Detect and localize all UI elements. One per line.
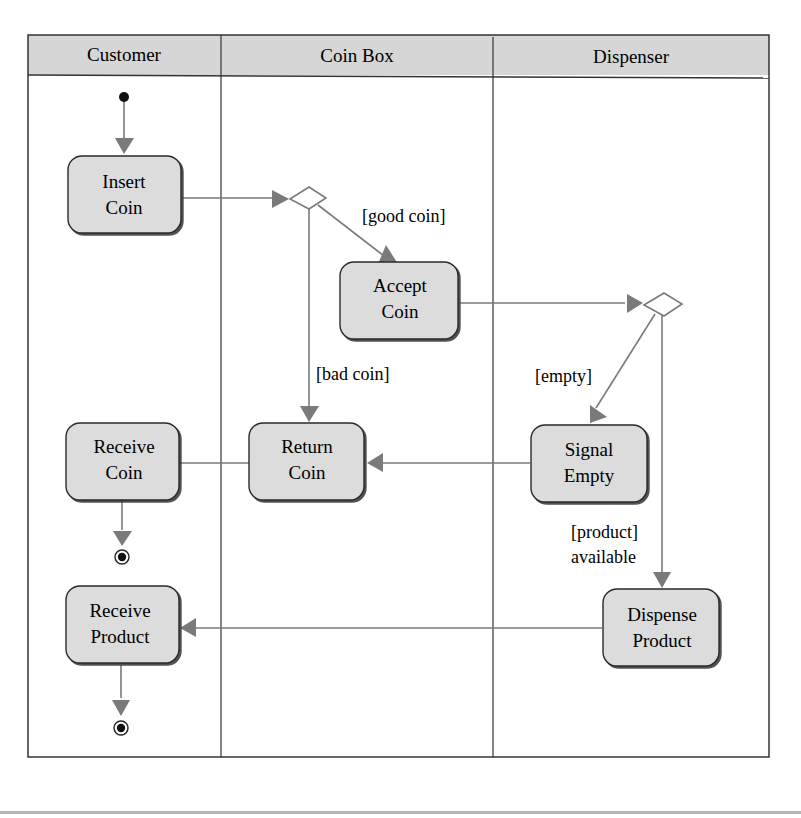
arrowhead-icon xyxy=(300,406,319,422)
guard-empty: [empty] xyxy=(535,366,592,386)
lane-title-coinbox: Coin Box xyxy=(320,45,394,66)
guard-product-available-line1: [product] xyxy=(571,522,638,542)
header-divider xyxy=(28,75,769,78)
activity-diagram: Customer Coin Box Dispenser xyxy=(0,0,801,818)
svg-text:Return: Return xyxy=(281,436,333,457)
action-return-coin[interactable]: Return Coin xyxy=(249,423,364,500)
bottom-rule xyxy=(0,811,801,814)
svg-text:Receive: Receive xyxy=(93,436,154,457)
arrowhead-icon xyxy=(113,531,132,546)
lane-title-dispenser: Dispenser xyxy=(593,46,670,67)
svg-text:Accept: Accept xyxy=(373,275,428,296)
edges xyxy=(121,97,662,698)
action-insert-coin[interactable]: Insert Coin xyxy=(68,156,181,233)
svg-text:Signal: Signal xyxy=(565,439,614,460)
arrowhead-icon xyxy=(627,294,643,313)
svg-text:Receive: Receive xyxy=(89,600,150,621)
arrowhead-icon xyxy=(653,572,671,588)
svg-text:Coin: Coin xyxy=(382,301,419,322)
svg-text:Insert: Insert xyxy=(102,171,146,192)
lane-title-customer: Customer xyxy=(87,44,162,65)
arrowhead-icon xyxy=(272,190,289,208)
arrowhead-icon xyxy=(115,138,134,154)
svg-text:Empty: Empty xyxy=(564,465,615,486)
arrowhead-icon xyxy=(367,453,383,472)
arrowhead-icon xyxy=(112,700,130,716)
action-receive-product[interactable]: Receive Product xyxy=(66,586,179,663)
decision-diamond-stock-check[interactable] xyxy=(644,293,682,316)
guard-good-coin: [good coin] xyxy=(362,206,445,226)
svg-text:Coin: Coin xyxy=(289,462,326,483)
svg-text:Product: Product xyxy=(632,630,692,651)
action-accept-coin[interactable]: Accept Coin xyxy=(340,262,458,339)
arrowhead-icon xyxy=(180,618,196,637)
svg-text:Product: Product xyxy=(90,626,150,647)
initial-node xyxy=(119,92,129,102)
svg-text:Dispense: Dispense xyxy=(627,604,697,625)
final-node-coin xyxy=(115,550,129,564)
action-dispense-product[interactable]: Dispense Product xyxy=(603,589,719,666)
decision-diamond-coin-check[interactable] xyxy=(290,187,326,209)
action-signal-empty[interactable]: Signal Empty xyxy=(531,425,647,502)
svg-text:Coin: Coin xyxy=(106,462,143,483)
action-receive-coin[interactable]: Receive Coin xyxy=(66,423,179,500)
arrowhead-icon xyxy=(590,405,607,423)
guard-bad-coin: [bad coin] xyxy=(316,364,389,384)
guard-product-available-line2: available xyxy=(571,547,636,567)
svg-text:Coin: Coin xyxy=(106,197,143,218)
final-node-product xyxy=(114,721,128,735)
